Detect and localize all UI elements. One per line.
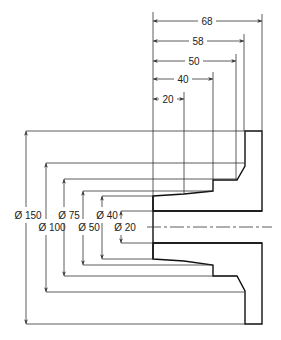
length-dimension-label: 50 (188, 56, 200, 67)
length-dimension-68: 68 (153, 16, 262, 27)
length-dimension-label: 40 (177, 74, 189, 85)
diameter-dimension-label: Ø 50 (78, 222, 100, 233)
part-section (153, 131, 262, 324)
length-dimension-20: 20 (153, 94, 184, 105)
length-dimension-label: 58 (192, 36, 204, 47)
length-dimension-40: 40 (153, 74, 213, 85)
upper-section (153, 131, 262, 211)
diameter-dimension-label: Ø 40 (96, 210, 118, 221)
diameter-dimension-label: Ø 100 (38, 222, 66, 233)
diameter-dimensions: Ø 150Ø 100Ø 75Ø 50Ø 40Ø 20 (14, 131, 245, 324)
diameter-dimension-75: Ø 75 (58, 179, 153, 276)
length-dimension-50: 50 (153, 56, 236, 67)
length-dimension-label: 20 (162, 94, 174, 105)
lower-section (153, 243, 262, 324)
diameter-dimension-label: Ø 75 (58, 210, 80, 221)
diameter-dimension-label: Ø 150 (14, 210, 42, 221)
length-dimension-58: 58 (153, 36, 244, 47)
technical-drawing: 6858504020 Ø 150Ø 100Ø 75Ø 50Ø 40Ø 20 (0, 0, 281, 340)
length-dimension-label: 68 (201, 16, 213, 27)
diameter-dimension-label: Ø 20 (114, 222, 136, 233)
length-dimensions: 6858504020 (153, 16, 262, 105)
